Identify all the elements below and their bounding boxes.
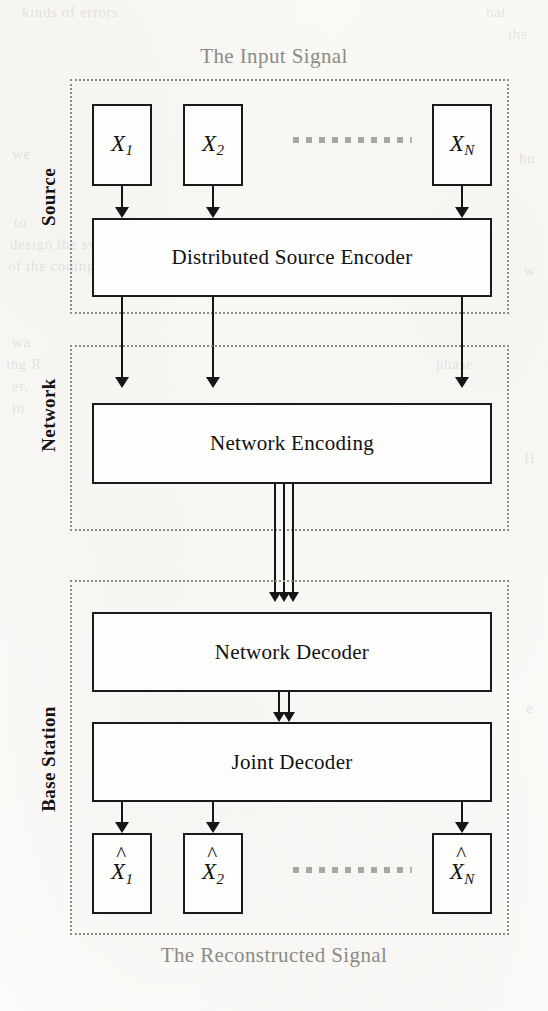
ellipsis-dot	[397, 137, 403, 143]
var-sub: 1	[126, 871, 134, 887]
ellipsis-dot	[371, 867, 377, 873]
ghost-text: w	[524, 262, 535, 279]
ghost-text: ing R	[6, 356, 42, 373]
ghost-text: kinds of errors	[22, 4, 118, 21]
arrow-xn-to-encoder-head	[455, 207, 469, 218]
ghost-text: the	[508, 26, 528, 43]
arrow-netenc-to-netdec-line-1	[274, 484, 276, 593]
hat-accent: ^	[207, 844, 217, 865]
ellipsis-dot	[332, 867, 338, 873]
ellipsis-dot	[293, 137, 299, 143]
ellipsis-dot	[319, 867, 325, 873]
arrow-jointdec-to-xhatn-line	[461, 802, 463, 824]
ghost-text: in	[12, 400, 25, 417]
reconstructed-ellipsis	[293, 867, 412, 873]
var-sub: 2	[217, 871, 225, 887]
source-node-x2-label: X2	[202, 131, 224, 160]
ghost-text: nal	[486, 4, 506, 21]
reconstructed-node-xhat2: ^X2	[183, 833, 243, 914]
arrow-jointdec-to-xhat2-line	[212, 802, 214, 824]
ellipsis-dot	[319, 137, 325, 143]
arrow-x2-to-encoder-line	[212, 186, 214, 209]
arrow-xn-to-encoder-line	[461, 186, 463, 209]
ellipsis-dot	[358, 137, 364, 143]
ghost-text: e	[526, 700, 533, 717]
ellipsis-dot	[384, 867, 390, 873]
ghost-text: er,	[12, 378, 29, 395]
ellipsis-dot-tail	[410, 867, 412, 873]
region-label-base-station: Base Station	[38, 694, 60, 824]
source-node-x1: X1	[92, 104, 152, 186]
ghost-text: hu	[519, 150, 535, 167]
arrow-x2-to-encoder-head	[206, 207, 220, 218]
hat-accent: ^	[456, 844, 466, 865]
bottom-caption: The Reconstructed Signal	[0, 943, 548, 968]
source-node-x1-label: X1	[111, 131, 133, 160]
ellipsis-dot	[345, 137, 351, 143]
ghost-text: H	[524, 450, 535, 467]
var-sub: N	[464, 871, 474, 887]
arrow-x1-to-encoder-head	[115, 207, 129, 218]
block-network-decoder: Network Decoder	[92, 612, 492, 692]
ellipsis-dot	[293, 867, 299, 873]
ghost-text: wa	[12, 334, 31, 351]
arrow-jointdec-to-xhat2-head	[206, 822, 220, 833]
block-distributed-source-encoder: Distributed Source Encoder	[92, 218, 492, 297]
source-node-xn-label: XN	[450, 131, 475, 160]
var-base: X	[111, 131, 125, 156]
reconstructed-node-xhatn: ^XN	[432, 833, 492, 914]
ellipsis-dot	[358, 867, 364, 873]
arrow-x1-to-encoder-line	[121, 186, 123, 209]
arrow-netenc-to-netdec-line-2	[283, 484, 285, 593]
ellipsis-dot	[306, 137, 312, 143]
var-base: X	[202, 131, 216, 156]
reconstructed-node-xhatn-label: ^XN	[450, 859, 475, 888]
source-node-x2: X2	[183, 104, 243, 186]
ellipsis-dot	[371, 137, 377, 143]
var-sub: 1	[126, 142, 134, 158]
ellipsis-dot	[332, 137, 338, 143]
source-node-xn: XN	[432, 104, 492, 186]
reconstructed-node-xhat2-label: ^X2	[202, 859, 224, 888]
ellipsis-dot	[306, 867, 312, 873]
ellipsis-dot	[397, 867, 403, 873]
arrow-jointdec-to-xhat1-line	[121, 802, 123, 824]
ellipsis-dot	[345, 867, 351, 873]
arrow-jointdec-to-xhat1-head	[115, 822, 129, 833]
var-sub: N	[464, 142, 474, 158]
arrow-netdec-to-jointdec-head-2	[283, 712, 295, 722]
arrow-netdec-to-jointdec-line-1	[278, 692, 280, 714]
ellipsis-dot-tail	[410, 137, 412, 143]
region-label-network: Network	[38, 367, 60, 463]
reconstructed-node-xhat1-label: ^X1	[111, 859, 133, 888]
var-sub: 2	[217, 142, 225, 158]
ghost-text: to	[14, 214, 27, 231]
var-base: X	[450, 131, 464, 156]
block-joint-decoder: Joint Decoder	[92, 722, 492, 802]
region-label-source: Source	[38, 154, 60, 240]
hat-accent: ^	[116, 844, 126, 865]
figure-canvas: kinds of errorsnalthewehutodesign the sy…	[0, 0, 548, 1011]
arrow-netdec-to-jointdec-line-2	[288, 692, 290, 714]
arrow-jointdec-to-xhatn-head	[455, 822, 469, 833]
reconstructed-node-xhat1: ^X1	[92, 833, 152, 914]
ghost-text: we	[12, 146, 31, 163]
block-network-encoding: Network Encoding	[92, 403, 492, 484]
ellipsis-dot	[384, 137, 390, 143]
source-ellipsis	[293, 137, 412, 143]
top-caption: The Input Signal	[0, 44, 548, 69]
arrow-netenc-to-netdec-line-3	[292, 484, 294, 593]
